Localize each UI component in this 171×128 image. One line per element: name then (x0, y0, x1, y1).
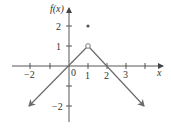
y-tick-label-2: 2 (56, 21, 61, 32)
x-axis-label: x (156, 67, 162, 78)
right-branch-line (90, 48, 145, 107)
x-tick-label-2: 2 (104, 70, 109, 81)
function-graph: f(x) x 0 −2 1 2 3 2 1 −2 (0, 0, 171, 128)
filled-point (86, 24, 89, 27)
open-point (86, 44, 91, 49)
x-tick-label-3: 3 (123, 69, 128, 80)
x-tick-label-neg2: −2 (24, 69, 35, 80)
y-tick-label-neg2: −2 (52, 101, 63, 112)
y-tick-label-1: 1 (56, 41, 61, 52)
left-branch-line (29, 48, 87, 107)
x-tick-label-1: 1 (85, 70, 90, 81)
y-axis-label: f(x) (50, 3, 65, 15)
origin-label: 0 (71, 67, 76, 78)
